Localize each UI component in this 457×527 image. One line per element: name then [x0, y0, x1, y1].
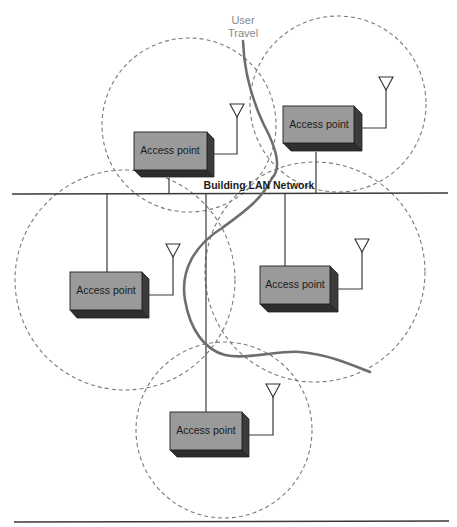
access-point-label: Access point — [140, 144, 200, 156]
access-point-middle-left: Access point — [70, 244, 180, 318]
access-point-label: Access point — [76, 284, 136, 296]
access-point-top-right: Access point — [283, 77, 393, 151]
lan-backbone-line — [12, 193, 448, 194]
user-travel-label: User — [231, 14, 255, 26]
access-point-middle-right: Access point — [260, 239, 369, 312]
antenna-icon — [379, 77, 393, 90]
access-point-label: Access point — [265, 278, 325, 290]
user-travel-path — [184, 41, 370, 372]
lan-network-label: Building LAN Network — [204, 179, 315, 191]
access-point-label: Access point — [176, 424, 236, 436]
antenna-icon — [355, 239, 369, 252]
antenna-icon — [166, 244, 180, 257]
antenna-icon — [266, 384, 280, 397]
user-travel-label: Travel — [228, 27, 258, 39]
access-point-label: Access point — [289, 118, 349, 130]
antenna-icon — [230, 104, 244, 117]
wireless-lan-diagram: Access point Access point Access point A… — [0, 0, 457, 527]
access-point-bottom: Access point — [170, 384, 280, 457]
bottom-divider-line — [14, 521, 449, 522]
access-point-top-left: Access point — [134, 104, 244, 177]
